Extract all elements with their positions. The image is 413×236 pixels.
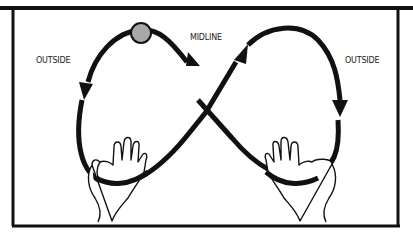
direction-arrows [79,44,348,117]
arrow-midline-up-icon [186,52,200,66]
arrow-diagonal-up-icon [234,44,248,64]
arrow-left-down-icon [79,82,93,100]
ball-icon [131,23,151,43]
outside-left-label: OUTSIDE [36,56,70,65]
outside-right-label: OUTSIDE [345,56,379,65]
arrow-right-down-icon [332,100,348,117]
midline-label: MIDLINE [190,33,222,42]
figure-eight-diagram: OUTSIDE MIDLINE OUTSIDE [0,0,413,236]
